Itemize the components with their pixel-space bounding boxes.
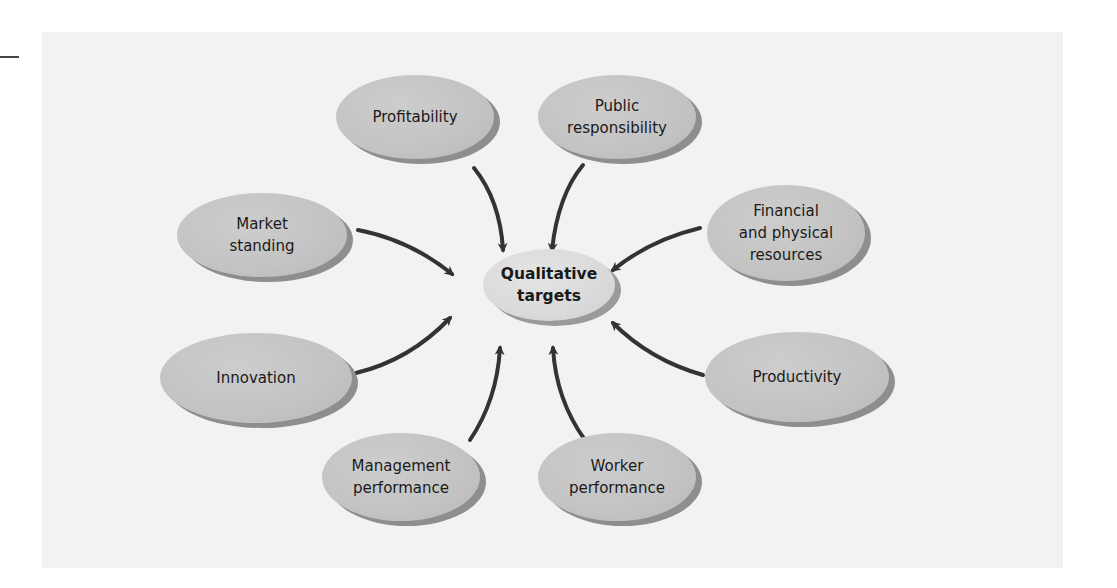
node-label: Productivity — [743, 366, 852, 388]
arrow-innovation-to-center — [356, 318, 450, 373]
node-financial-physical-resources: Financial and physical resources — [707, 185, 865, 281]
node-profitability: Profitability — [336, 75, 494, 159]
node-label: Financial and physical resources — [729, 200, 843, 266]
node-label: Public responsibility — [557, 95, 677, 139]
node-label: Profitability — [362, 106, 467, 128]
node-market-standing: Market standing — [177, 193, 347, 277]
node-label: Innovation — [206, 367, 305, 389]
node-label: Worker performance — [559, 455, 675, 499]
hub-label: Qualitative targets — [491, 263, 608, 307]
arrow-market-standing-to-center — [358, 230, 452, 274]
arrow-financial-physical-resources-to-center — [613, 228, 700, 270]
node-label: Management performance — [342, 455, 461, 499]
node-worker-performance: Worker performance — [538, 433, 696, 521]
arrow-profitability-to-center — [474, 168, 503, 250]
node-productivity: Productivity — [705, 332, 889, 422]
arrow-management-performance-to-center — [470, 348, 500, 440]
node-public-responsibility: Public responsibility — [538, 75, 696, 159]
arrow-worker-performance-to-center — [553, 348, 585, 440]
hub-node-qualitative-targets: Qualitative targets — [483, 249, 615, 321]
arrow-public-responsibility-to-center — [552, 165, 583, 250]
arrow-productivity-to-center — [613, 323, 703, 375]
node-innovation: Innovation — [160, 333, 352, 423]
node-management-performance: Management performance — [322, 433, 480, 521]
node-label: Market standing — [219, 213, 304, 257]
